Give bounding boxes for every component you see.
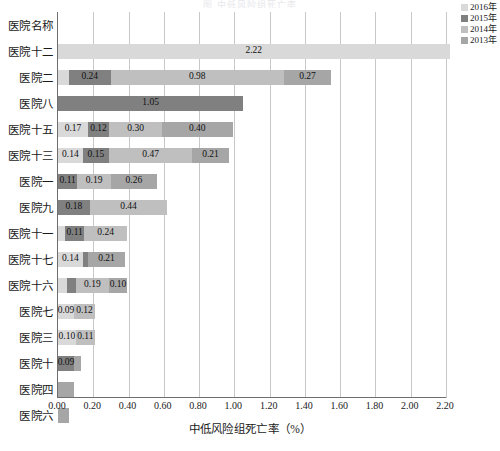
bar-segment[interactable]: [67, 278, 76, 293]
stacked-bar[interactable]: [58, 382, 74, 397]
bar-segment[interactable]: 1.05: [58, 96, 243, 111]
bar-row[interactable]: 0.140.150.470.21: [58, 142, 445, 168]
bar-value-label: 0.21: [98, 254, 115, 264]
stacked-bar[interactable]: 0.240.980.27: [58, 70, 331, 85]
x-axis-tick-label: 1.00: [213, 400, 253, 411]
bar-row[interactable]: [58, 376, 445, 402]
y-axis-tick-label: 医院七: [0, 298, 56, 324]
legend-label: 2013年: [470, 36, 497, 45]
stacked-bar[interactable]: 0.100.11: [58, 330, 95, 345]
bar-row[interactable]: 1.05: [58, 90, 445, 116]
y-axis-tick-label: 医院十六: [0, 272, 56, 298]
bar-segment[interactable]: 0.98: [111, 70, 284, 85]
bar-segment[interactable]: 0.11: [58, 174, 77, 189]
stacked-bar[interactable]: 0.170.120.300.40: [58, 122, 233, 137]
bar-segment[interactable]: [58, 382, 74, 397]
bar-segment[interactable]: 0.40: [162, 122, 233, 137]
bar-segment[interactable]: 0.18: [58, 200, 90, 215]
x-axis-tick-label: 1.20: [249, 400, 289, 411]
legend-item[interactable]: 2015年: [461, 13, 497, 23]
y-axis-tick-label: 医院十七: [0, 246, 56, 272]
bar-row[interactable]: 0.170.120.300.40: [58, 116, 445, 142]
stacked-bar[interactable]: 0.140.150.470.21: [58, 148, 229, 163]
bar-value-label: 0.44: [120, 202, 137, 212]
legend-item[interactable]: 2016年: [461, 2, 497, 12]
bar-segment[interactable]: 2.22: [58, 44, 450, 59]
bar-value-label: 0.14: [62, 150, 79, 160]
bar-value-label: 0.10: [59, 332, 76, 342]
bar-segment[interactable]: 0.15: [83, 148, 109, 163]
stacked-bar[interactable]: 0.110.190.26: [58, 174, 157, 189]
bar-value-label: 0.11: [67, 228, 83, 238]
legend-item[interactable]: 2014年: [461, 24, 497, 34]
bar-segment[interactable]: [74, 356, 81, 371]
bar-segment[interactable]: [58, 226, 65, 241]
bar-segment[interactable]: 0.11: [65, 226, 84, 241]
bar-value-label: 0.47: [142, 150, 159, 160]
bar-segment[interactable]: 0.24: [69, 70, 111, 85]
bar-segment[interactable]: 0.14: [58, 148, 83, 163]
y-axis-labels: 医院名称医院十二医院二医院八医院十五医院十三医院一医院九医院十一医院十七医院十六…: [0, 12, 56, 428]
bar-row[interactable]: 0.100.11: [58, 324, 445, 350]
bar-row[interactable]: 0.110.190.26: [58, 168, 445, 194]
bar-row[interactable]: 0.110.24: [58, 220, 445, 246]
bar-segment[interactable]: 0.10: [58, 330, 76, 345]
y-axis-tick-label: 医院十五: [0, 116, 56, 142]
stacked-bar[interactable]: 0.110.24: [58, 226, 127, 241]
bar-segment[interactable]: 0.30: [109, 122, 162, 137]
stacked-bar[interactable]: 0.09: [58, 356, 81, 371]
bar-value-label: 0.26: [126, 176, 143, 186]
bar-segment[interactable]: 0.24: [84, 226, 126, 241]
x-axis-tick-label: 0.00: [37, 400, 77, 411]
bar-value-label: 0.11: [60, 176, 76, 186]
stacked-bar[interactable]: 0.180.44: [58, 200, 167, 215]
legend-item[interactable]: 2013年: [461, 35, 497, 45]
bar-value-label: 0.09: [58, 306, 75, 316]
bar-segment[interactable]: 0.09: [58, 356, 74, 371]
legend-label: 2016年: [470, 3, 497, 12]
bar-row[interactable]: 0.090.12: [58, 298, 445, 324]
stacked-bar[interactable]: 1.05: [58, 96, 243, 111]
bar-row[interactable]: 0.240.980.27: [58, 64, 445, 90]
bar-row[interactable]: 0.140.21: [58, 246, 445, 272]
chart-container: 图 中低风险组死亡率 2016年2015年2014年2013年 医院名称医院十二…: [0, 0, 500, 451]
bar-segment[interactable]: 0.21: [192, 148, 229, 163]
bar-segment[interactable]: 0.17: [58, 122, 88, 137]
bar-segment[interactable]: 0.21: [88, 252, 125, 267]
bar-value-label: 0.24: [81, 72, 98, 82]
x-axis-title: 中低风险组死亡率（%）: [0, 420, 500, 436]
bar-segment[interactable]: [58, 70, 69, 85]
bar-segment[interactable]: 0.14: [58, 252, 83, 267]
bar-value-label: 0.21: [202, 150, 219, 160]
bar-segment[interactable]: 0.10: [109, 278, 127, 293]
stacked-bar[interactable]: 0.140.21: [58, 252, 125, 267]
bar-segment[interactable]: 0.09: [58, 304, 74, 319]
stacked-bar[interactable]: 0.190.10: [58, 278, 127, 293]
legend-swatch-icon: [461, 4, 468, 11]
legend-swatch-icon: [461, 15, 468, 22]
x-axis-tick-label: 2.00: [390, 400, 430, 411]
bar-segment[interactable]: 0.19: [77, 174, 111, 189]
stacked-bar[interactable]: 2.22: [58, 44, 450, 59]
bar-segment[interactable]: 0.44: [90, 200, 168, 215]
bar-row[interactable]: 0.190.10: [58, 272, 445, 298]
bar-segment[interactable]: 0.11: [76, 330, 95, 345]
bar-row[interactable]: 0.09: [58, 350, 445, 376]
stacked-bar[interactable]: 0.090.12: [58, 304, 95, 319]
bar-segment[interactable]: 0.12: [88, 122, 109, 137]
bar-row[interactable]: 0.180.44: [58, 194, 445, 220]
bar-segment[interactable]: 0.26: [111, 174, 157, 189]
header-spacer: [58, 12, 445, 38]
bar-value-label: 0.17: [65, 124, 82, 134]
bar-segment[interactable]: 0.27: [284, 70, 332, 85]
y-axis-header: 医院名称: [0, 12, 56, 38]
bar-segment[interactable]: 0.12: [74, 304, 95, 319]
x-axis-tick-label: 2.20: [425, 400, 465, 411]
bar-value-label: 0.18: [66, 202, 83, 212]
bar-segment[interactable]: 0.19: [76, 278, 110, 293]
bar-segment[interactable]: [58, 278, 67, 293]
bar-segment[interactable]: 0.47: [109, 148, 192, 163]
x-axis-tick-label: 0.60: [143, 400, 183, 411]
bar-row[interactable]: 2.22: [58, 38, 445, 64]
bar-value-label: 0.98: [189, 72, 206, 82]
